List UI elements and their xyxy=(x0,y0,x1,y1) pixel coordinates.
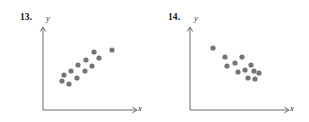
exercise-figure-row: 13. y x 14. y x xyxy=(0,0,309,122)
scatter-point xyxy=(82,68,87,73)
scatter-point xyxy=(75,62,80,67)
figure-14-data-points xyxy=(210,45,261,81)
scatter-point xyxy=(242,67,247,72)
figure-13-svg xyxy=(0,0,154,122)
scatter-point xyxy=(222,54,227,59)
scatter-point xyxy=(256,70,261,75)
scatter-point xyxy=(210,45,215,50)
scatter-point xyxy=(248,62,253,67)
figure-13-axes xyxy=(40,27,137,113)
figure-13-x-axis-label: x xyxy=(138,104,142,113)
figure-14-x-axis-label: x xyxy=(290,104,294,113)
scatter-point xyxy=(239,54,244,59)
scatter-point xyxy=(89,63,94,68)
figure-13-data-points xyxy=(59,47,114,86)
scatter-point xyxy=(224,63,229,68)
figure-13-y-axis-label: y xyxy=(46,14,50,23)
scatter-point xyxy=(251,68,256,73)
figure-14-y-axis-label: y xyxy=(194,14,198,23)
scatter-point xyxy=(235,69,240,74)
scatter-point xyxy=(245,75,250,80)
figure-14-scatter-plot xyxy=(155,0,309,122)
figure-14: 14. y x xyxy=(155,0,309,122)
scatter-point xyxy=(252,76,257,81)
scatter-point xyxy=(91,49,96,54)
scatter-point xyxy=(61,72,66,77)
scatter-point xyxy=(59,78,64,83)
scatter-point xyxy=(68,68,73,73)
scatter-point xyxy=(109,47,114,52)
figure-13: 13. y x xyxy=(0,0,154,122)
scatter-point xyxy=(83,57,88,62)
figure-13-scatter-plot xyxy=(0,0,154,122)
scatter-point xyxy=(96,55,101,60)
scatter-point xyxy=(74,75,79,80)
scatter-point xyxy=(66,81,71,86)
scatter-point xyxy=(232,60,237,65)
figure-14-svg xyxy=(155,0,309,122)
